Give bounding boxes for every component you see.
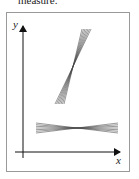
diagram-canvas — [0, 0, 139, 179]
steep-line-bundle — [55, 29, 91, 104]
flat-line-bundle — [36, 123, 118, 133]
y-axis-label: y — [13, 18, 18, 30]
x-axis-label: x — [116, 154, 121, 166]
